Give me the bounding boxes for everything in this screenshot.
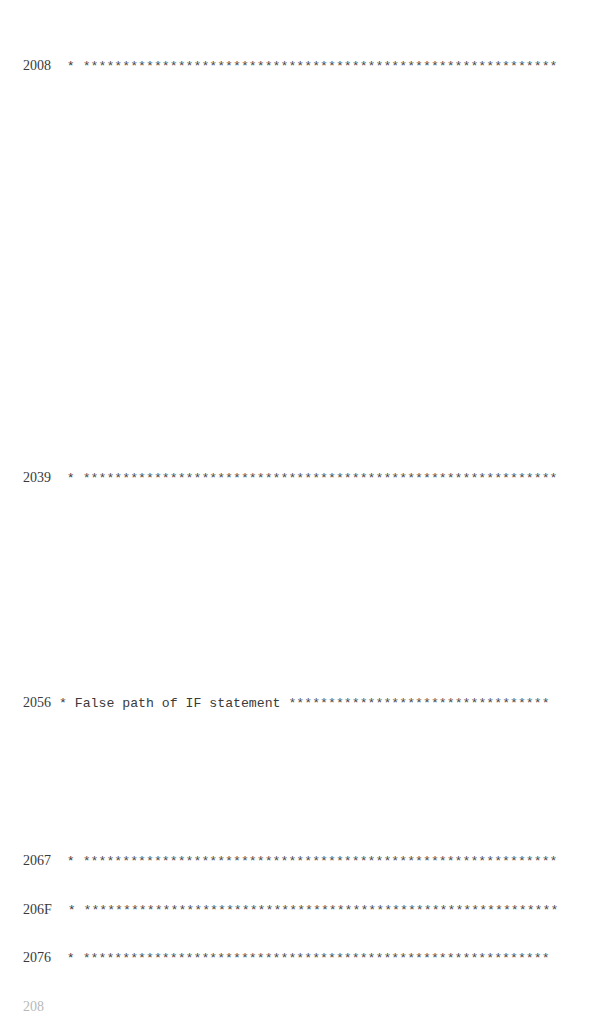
listing-line-2067: 2067 * *********************************… xyxy=(23,853,558,870)
line-address: 2008 xyxy=(23,58,51,73)
cut-off-line: 208 xyxy=(23,999,44,1015)
asterisk-divider: ****************************************… xyxy=(83,854,558,869)
line-address: 206F xyxy=(23,902,52,917)
line-address: 2076 xyxy=(23,950,51,965)
comment-marker: * xyxy=(68,903,76,918)
listing-line-2008: 2008 * *********************************… xyxy=(23,58,558,75)
line-address: 2056 xyxy=(23,695,51,710)
comment-marker: * xyxy=(67,854,75,869)
asterisk-divider: ********************************* xyxy=(288,696,549,711)
listing-line-2056: 2056 * False path of IF statement ******… xyxy=(23,695,550,712)
comment-text: False path of IF statement xyxy=(75,696,281,711)
listing-line-206F: 206F * *********************************… xyxy=(23,902,558,919)
asterisk-divider: ****************************************… xyxy=(83,903,558,918)
listing-line-2039: 2039 * *********************************… xyxy=(23,470,558,487)
listing-line-2076: 2076 * *********************************… xyxy=(23,950,550,967)
asterisk-divider: ****************************************… xyxy=(83,59,558,74)
line-address: 2067 xyxy=(23,853,51,868)
line-address: 2039 xyxy=(23,470,51,485)
comment-marker: * xyxy=(67,471,75,486)
comment-marker: * xyxy=(67,951,75,966)
asterisk-divider: ****************************************… xyxy=(83,951,550,966)
comment-marker: * xyxy=(59,696,67,711)
comment-marker: * xyxy=(67,59,75,74)
asterisk-divider: ****************************************… xyxy=(83,471,558,486)
